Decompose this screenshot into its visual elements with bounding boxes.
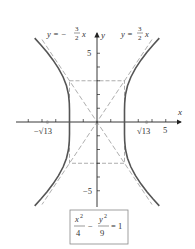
x-axis-label: x xyxy=(177,107,182,117)
svg-text:y =: y = xyxy=(120,29,133,39)
svg-text:2: 2 xyxy=(80,213,83,219)
svg-text:= 1: = 1 xyxy=(111,221,122,231)
y-tick-label-5: 5 xyxy=(87,48,91,58)
svg-text:−: − xyxy=(88,221,93,231)
asymptote-label-positive: y = 3 2 x xyxy=(120,25,149,42)
focus-right-label: √13 xyxy=(137,126,150,136)
asymptote-label-negative: y = − 3 2 x xyxy=(46,25,86,42)
x-tick-label-5: 5 xyxy=(163,125,167,135)
svg-text:y = −: y = − xyxy=(46,29,67,39)
y-tick-label-neg5: −5 xyxy=(83,186,92,196)
svg-text:3: 3 xyxy=(138,25,142,33)
svg-text:x: x xyxy=(81,29,86,39)
y-axis-label: y xyxy=(100,30,105,40)
focus-left-label: −√13 xyxy=(34,126,52,136)
svg-text:3: 3 xyxy=(75,25,79,33)
equation-box: x 2 4 − y 2 9 = 1 xyxy=(70,210,128,244)
hyperbola-figure: x y 5 5 −5 −√13 √13 y = − 3 2 x y = 3 2 … xyxy=(0,0,195,249)
svg-text:9: 9 xyxy=(100,228,104,238)
focus-left xyxy=(46,120,49,123)
svg-text:x: x xyxy=(74,214,79,224)
focus-right xyxy=(145,120,148,123)
svg-text:y: y xyxy=(98,214,103,224)
svg-text:2: 2 xyxy=(104,213,107,219)
svg-text:2: 2 xyxy=(138,34,142,42)
svg-text:x: x xyxy=(144,29,149,39)
svg-text:2: 2 xyxy=(75,34,79,42)
